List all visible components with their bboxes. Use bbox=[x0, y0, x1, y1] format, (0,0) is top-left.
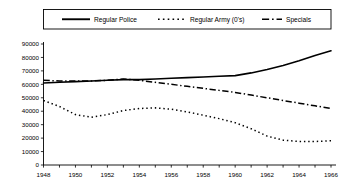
y-tick-label: 40000 bbox=[22, 107, 40, 114]
y-tick-label: 70000 bbox=[22, 67, 40, 74]
y-tick-label: 80000 bbox=[22, 54, 40, 61]
x-tick-label: 1952 bbox=[101, 171, 115, 178]
x-tick-label: 1962 bbox=[260, 171, 274, 178]
x-tick-label: 1948 bbox=[37, 171, 51, 178]
legend-label: Specials bbox=[286, 16, 312, 24]
x-tick-label: 1956 bbox=[164, 171, 178, 178]
chart-container: Regular PoliceRegular Army (0's)Specials… bbox=[0, 0, 350, 189]
y-tick-label: 90000 bbox=[22, 40, 40, 47]
x-tick-label: 1954 bbox=[132, 171, 146, 178]
x-tick-label: 1950 bbox=[69, 171, 83, 178]
x-tick-label: 1966 bbox=[324, 171, 338, 178]
legend-label: Regular Police bbox=[94, 16, 137, 24]
series-line-regular-police bbox=[44, 51, 332, 83]
y-tick-label: 10000 bbox=[22, 148, 40, 155]
x-axis: 1948195019521954195619581960196219641966 bbox=[37, 165, 339, 178]
legend-label: Regular Army (0's) bbox=[190, 16, 244, 24]
line-chart: Regular PoliceRegular Army (0's)Specials… bbox=[0, 0, 350, 189]
y-tick-label: 0 bbox=[36, 161, 40, 168]
x-tick-label: 1958 bbox=[196, 171, 210, 178]
x-tick-label: 1964 bbox=[292, 171, 306, 178]
y-tick-label: 30000 bbox=[22, 121, 40, 128]
y-axis: 0100002000030000400005000060000700008000… bbox=[22, 40, 44, 168]
y-tick-label: 50000 bbox=[22, 94, 40, 101]
plot-series bbox=[44, 51, 332, 142]
chart-legend: Regular PoliceRegular Army (0's)Specials bbox=[44, 10, 332, 30]
series-line-regular-army-0-s bbox=[44, 100, 332, 141]
y-tick-label: 60000 bbox=[22, 81, 40, 88]
series-line-specials bbox=[44, 79, 332, 109]
y-tick-label: 20000 bbox=[22, 134, 40, 141]
x-tick-label: 1960 bbox=[228, 171, 242, 178]
